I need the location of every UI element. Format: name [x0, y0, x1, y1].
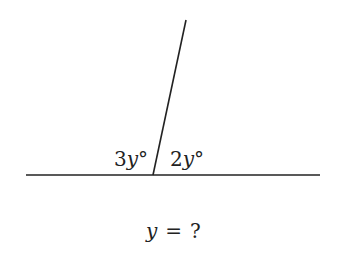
- angle-left-label: 3y°: [114, 147, 148, 171]
- angle-right-label: 2y°: [170, 147, 204, 171]
- question-label: y=?: [145, 219, 201, 243]
- angle-diagram: 3y° 2y° y=?: [0, 0, 340, 262]
